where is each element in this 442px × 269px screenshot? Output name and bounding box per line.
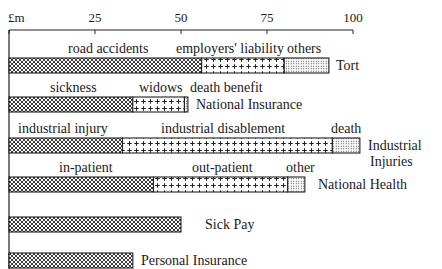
bar-segment	[123, 138, 333, 153]
category-label: Tort	[336, 58, 359, 73]
bar-segment	[332, 138, 360, 153]
segment-label: road accidents	[68, 41, 148, 56]
category-label: Sick Pay	[205, 217, 254, 232]
segment-label: others	[287, 41, 321, 56]
bar-segment	[153, 177, 287, 192]
bar-row-personal-insurance: Personal Insurance	[9, 253, 247, 268]
bar-segment	[133, 97, 185, 112]
bar-segment	[184, 97, 187, 112]
segment-label: sickness	[50, 80, 97, 95]
bar-segment	[9, 177, 153, 192]
category-label: Industrial	[368, 138, 422, 153]
bar-segment	[9, 217, 181, 232]
x-tick-label: 50	[175, 10, 188, 25]
segment-label: other	[286, 160, 315, 175]
category-label: Injuries	[370, 154, 413, 169]
x-tick-label: 100	[343, 10, 363, 25]
segment-label: widows	[139, 80, 183, 95]
bar-row-national-health: in-patientout-patientotherNational Healt…	[9, 160, 407, 192]
segment-label: death	[331, 121, 361, 136]
segment-label: industrial disablement	[161, 121, 285, 136]
bar-segment	[9, 97, 133, 112]
bar-segment	[9, 58, 202, 73]
segment-label: industrial injury	[18, 121, 108, 136]
bars-group: road accidentsemployers' liabilityothers…	[9, 41, 422, 268]
segment-label: in-patient	[59, 160, 113, 175]
bar-segment	[202, 58, 285, 73]
x-tick-label: 75	[261, 10, 274, 25]
bar-segment	[9, 138, 123, 153]
x-tick-label: £m	[8, 10, 25, 25]
category-label: National Health	[318, 177, 407, 192]
bar-row-sick-pay: Sick Pay	[9, 217, 254, 232]
bar-segment	[9, 253, 133, 268]
bar-segment	[288, 177, 305, 192]
category-label: National Insurance	[196, 97, 302, 112]
x-tick-label: 25	[89, 10, 102, 25]
bar-segment	[284, 58, 329, 73]
segment-label: employers' liability	[176, 41, 284, 56]
bar-row-tort: road accidentsemployers' liabilityothers…	[9, 41, 359, 73]
bar-row-national-insurance: sicknesswidowsdeath benefitNational Insu…	[9, 80, 302, 112]
segment-label: death benefit	[190, 80, 263, 95]
horizontal-stacked-bar-chart: £m255075100 road accidentsemployers' lia…	[0, 0, 442, 269]
category-label: Personal Insurance	[141, 253, 247, 268]
segment-label: out-patient	[192, 160, 253, 175]
